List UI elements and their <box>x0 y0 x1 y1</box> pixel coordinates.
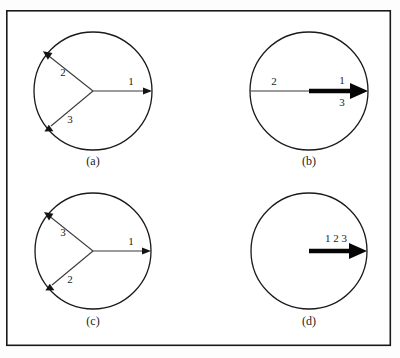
panel-d-caption: (d) <box>302 314 316 328</box>
panel-a-vector-2-label: 2 <box>60 66 66 78</box>
panel-d-vector-1-2-3-label: 1 2 3 <box>325 232 348 244</box>
panel-c-caption: (c) <box>86 314 99 328</box>
panel-b-vector-3-label: 3 <box>339 96 345 108</box>
panel-b-vector-1-label: 1 <box>339 74 345 86</box>
figure-container: 1 2 3 (a) 2 <box>0 0 400 358</box>
figure-border <box>7 11 391 346</box>
panel-c-vector-1-label: 1 <box>128 235 134 247</box>
panel-b-caption: (b) <box>302 154 316 168</box>
panel-c-vector-3-label: 3 <box>60 226 66 238</box>
panel-b-vector-2-label: 2 <box>271 75 277 87</box>
panel-c-vector-2-label: 2 <box>67 273 73 285</box>
panel-a-vector-1-label: 1 <box>128 75 134 87</box>
panel-a-vector-3-label: 3 <box>67 113 73 125</box>
vector-diagram-svg: 1 2 3 (a) 2 <box>0 0 400 358</box>
panel-a-caption: (a) <box>86 154 99 168</box>
